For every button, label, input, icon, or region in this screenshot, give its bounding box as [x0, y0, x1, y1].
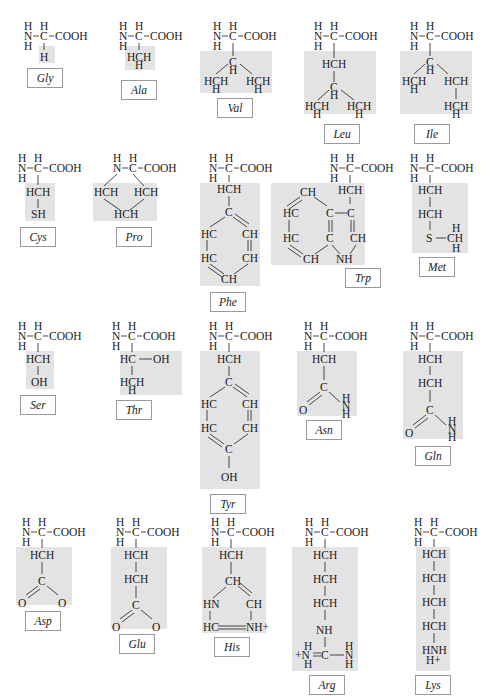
- svg-text:H: H: [24, 40, 32, 52]
- svg-text:C: C: [34, 162, 42, 174]
- svg-text:C: C: [321, 649, 329, 661]
- svg-text:H: H: [213, 40, 221, 52]
- label-tyr: Tyr: [210, 494, 246, 514]
- label-met: Met: [419, 257, 455, 277]
- label-asn: Asn: [306, 420, 342, 440]
- svg-text:C: C: [426, 330, 434, 342]
- svg-text:HC: HC: [201, 422, 217, 434]
- svg-text:CH: CH: [225, 575, 241, 587]
- svg-text:COOH: COOH: [49, 330, 82, 342]
- svg-text:C: C: [128, 330, 136, 342]
- label-trp: Trp: [345, 268, 381, 288]
- svg-text:HC: HC: [283, 232, 299, 244]
- svg-text:HCH: HCH: [418, 184, 442, 196]
- svg-text:CH: CH: [242, 228, 258, 240]
- svg-text:H: H: [410, 172, 418, 184]
- svg-text:HCH: HCH: [94, 186, 118, 198]
- tyr-structure: HNH HC COOH HCH C HC CH HC CH C OH: [200, 318, 290, 508]
- svg-text:NH: NH: [336, 253, 353, 265]
- svg-text:H: H: [18, 172, 26, 184]
- asp-structure: HNH HC COOH HCH C O O: [16, 514, 96, 624]
- svg-text:HCH: HCH: [313, 549, 337, 561]
- svg-text:H: H: [22, 536, 30, 548]
- label-thr: Thr: [116, 400, 152, 420]
- svg-text:C: C: [129, 162, 137, 174]
- svg-text:HCH: HCH: [26, 353, 50, 365]
- svg-text:C: C: [225, 206, 233, 218]
- svg-text:C: C: [135, 30, 143, 42]
- amino-acid-pro: HN HC COOH HCH HCH HCH Pro: [90, 150, 190, 250]
- svg-text:COOH: COOH: [53, 526, 86, 538]
- svg-text:HCH: HCH: [418, 377, 442, 389]
- svg-text:CH: CH: [300, 186, 316, 198]
- svg-text:H: H: [18, 340, 26, 352]
- svg-text:C: C: [229, 30, 237, 42]
- svg-text:H: H: [355, 108, 363, 120]
- svg-text:HCH: HCH: [338, 184, 362, 196]
- label-ile: Ile: [414, 124, 450, 144]
- svg-text:COOH: COOH: [143, 330, 176, 342]
- label-ser: Ser: [20, 395, 56, 415]
- svg-text:H: H: [342, 408, 350, 420]
- amino-acid-gln: HNH HC COOH HCH HCH C O H N H Gln: [402, 318, 492, 468]
- svg-text:C: C: [326, 232, 334, 244]
- svg-text:C: C: [38, 526, 46, 538]
- svg-text:H: H: [452, 242, 460, 254]
- amino-acid-leu: HNH HC COOH HCH C H HCH H HCH H Leu: [296, 18, 386, 143]
- svg-text:C: C: [227, 526, 235, 538]
- amino-acid-his: HNH HC COOH HCH CH HN CH HC NH+ His: [200, 514, 290, 654]
- label-glu: Glu: [119, 634, 155, 654]
- svg-text:HCH: HCH: [322, 58, 346, 70]
- svg-text:HCH: HCH: [134, 186, 158, 198]
- svg-text:H: H: [410, 83, 418, 95]
- svg-text:HCH: HCH: [124, 549, 148, 561]
- svg-text:HC: HC: [283, 207, 299, 219]
- svg-text:C: C: [426, 30, 434, 42]
- svg-text:C: C: [132, 526, 140, 538]
- svg-text:COOH: COOH: [336, 526, 369, 538]
- svg-text:C: C: [320, 381, 328, 393]
- amino-acid-val: HNH HC COOH C H HCH H HCH H Val: [200, 18, 290, 118]
- svg-text:H: H: [414, 536, 422, 548]
- svg-text:HCH: HCH: [313, 597, 337, 609]
- svg-text:COOH: COOH: [144, 162, 177, 174]
- svg-text:H: H: [304, 340, 312, 352]
- svg-text:NH+: NH+: [246, 621, 269, 633]
- amino-acid-trp: HNH HC COOH HCH CH HC C C HC C CH CH NH …: [270, 150, 380, 290]
- svg-text:HCH: HCH: [418, 353, 442, 365]
- amino-acid-met: HNH HC COOH HCH HCH S H CH H Met: [408, 150, 493, 270]
- svg-text:C: C: [430, 526, 438, 538]
- svg-text:H: H: [314, 40, 322, 52]
- svg-text:O: O: [152, 621, 160, 633]
- svg-text:O: O: [299, 404, 307, 416]
- svg-text:H: H: [112, 340, 120, 352]
- label-val: Val: [217, 98, 253, 118]
- svg-text:C: C: [225, 162, 233, 174]
- svg-text:H: H: [330, 172, 338, 184]
- svg-text:C: C: [326, 207, 334, 219]
- svg-text:HCH: HCH: [30, 549, 54, 561]
- his-structure: HNH HC COOH HCH CH HN CH HC NH+: [200, 514, 290, 654]
- svg-text:H: H: [330, 89, 338, 101]
- svg-text:NH: NH: [316, 624, 333, 636]
- lys-structure: HNH HC COOH HCH HCH HCH HCH HNH H+: [408, 514, 493, 696]
- amino-acid-tyr: HNH HC COOH HCH C HC CH HC CH C OH Tyr: [200, 318, 290, 508]
- svg-text:COOH: COOH: [49, 162, 82, 174]
- met-structure: HNH HC COOH HCH HCH S H CH H: [408, 150, 493, 270]
- svg-text:COOH: COOH: [361, 162, 394, 174]
- svg-text:S: S: [426, 232, 432, 244]
- svg-text:HCH: HCH: [219, 549, 243, 561]
- amino-acid-glu: HNH HC COOH HCH HCH C O O Glu: [110, 514, 190, 644]
- svg-text:OH: OH: [221, 471, 238, 483]
- glu-structure: HNH HC COOH HCH HCH C O O: [110, 514, 190, 644]
- svg-text:CH: CH: [246, 598, 262, 610]
- svg-text:HCH: HCH: [124, 573, 148, 585]
- svg-text:H+: H+: [426, 654, 441, 666]
- label-ala: Ala: [121, 80, 157, 100]
- svg-text:H: H: [448, 431, 456, 443]
- svg-text:COOH: COOH: [244, 30, 277, 42]
- svg-text:H: H: [209, 340, 217, 352]
- svg-text:C: C: [321, 526, 329, 538]
- svg-text:HCH: HCH: [422, 548, 446, 560]
- svg-text:CH: CH: [242, 422, 258, 434]
